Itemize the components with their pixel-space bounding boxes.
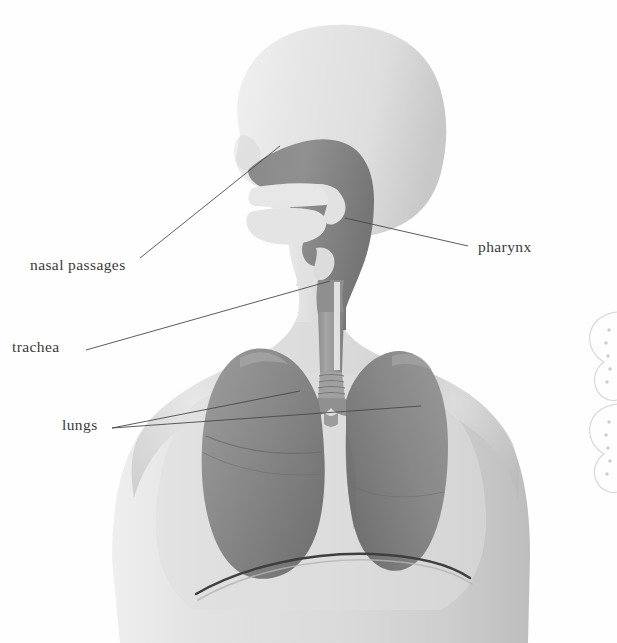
right-lung	[346, 351, 448, 571]
respiratory-system-figure: nasal passages pharynx trachea lungs	[0, 0, 617, 643]
label-pharynx: pharynx	[478, 238, 532, 255]
anatomy-illustration: nasal passages pharynx trachea lungs	[0, 0, 617, 643]
label-nasal-passages: nasal passages	[30, 256, 126, 273]
trachea-highlight	[334, 282, 340, 370]
label-trachea: trachea	[12, 338, 60, 355]
right-edge-decorations	[590, 312, 617, 493]
label-lungs: lungs	[62, 416, 98, 433]
trachea-tube	[318, 312, 344, 372]
decor-shape-lower	[590, 404, 617, 493]
decor-shape-upper	[590, 312, 617, 401]
left-lung	[202, 349, 325, 579]
